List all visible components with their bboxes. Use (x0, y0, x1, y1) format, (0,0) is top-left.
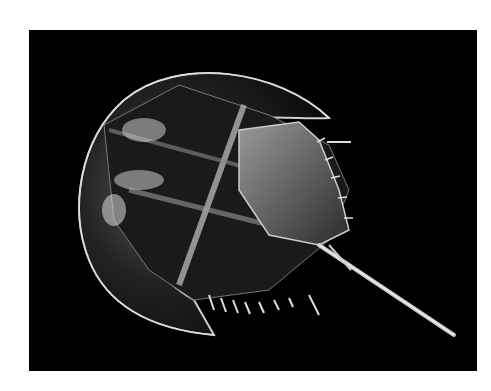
horseshoe-crab-photo (29, 30, 477, 371)
horseshoe-crab-illustration (29, 30, 477, 371)
